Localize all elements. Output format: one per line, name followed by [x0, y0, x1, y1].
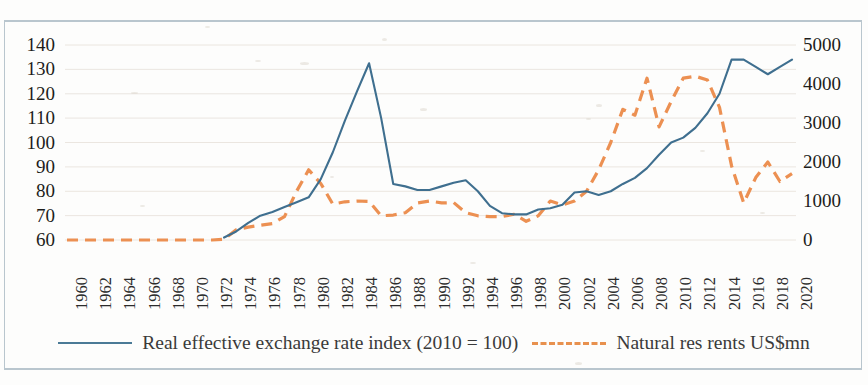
x-axis-tick-label: 1962 — [98, 277, 115, 310]
y-axis-left-tick-label: 70 — [9, 206, 55, 225]
x-axis-tick-label: 1990 — [437, 277, 454, 310]
x-axis-tick-label: 2018 — [775, 277, 792, 310]
y-axis-left-tick-label: 80 — [9, 181, 55, 200]
legend-label: Real effective exchange rate index (2010… — [142, 332, 518, 354]
y-axis-left-tick-label: 120 — [9, 84, 55, 103]
x-axis-tick-label: 1964 — [122, 277, 139, 310]
gridlines — [65, 45, 796, 240]
y-axis-right-tick-label: 2000 — [803, 152, 863, 171]
chart-legend: Real effective exchange rate index (2010… — [0, 326, 868, 360]
x-axis-tick-label: 2008 — [654, 277, 671, 310]
y-axis-left-tick-label: 130 — [9, 59, 55, 78]
x-axis-tick-label: 2000 — [557, 277, 574, 310]
x-axis-tick-label: 1984 — [364, 277, 381, 310]
x-axis-tick-label: 2016 — [751, 277, 768, 310]
y-axis-left-tick-label: 90 — [9, 157, 55, 176]
x-axis-tick-label: 1968 — [171, 277, 188, 310]
y-axis-right-tick-label: 3000 — [803, 113, 863, 132]
y-axis-left-tick-label: 60 — [9, 230, 55, 249]
legend-solid-line-icon — [58, 342, 132, 344]
y-axis-right-tick-label: 0 — [803, 230, 863, 249]
x-axis-tick-label: 1966 — [147, 277, 164, 310]
chart-figure: 60708090100110120130140 0100020003000400… — [0, 0, 868, 385]
y-axis-right-tick-label: 5000 — [803, 35, 863, 54]
x-axis-tick-label: 2004 — [606, 277, 623, 310]
x-axis-tick-label: 1976 — [267, 277, 284, 310]
x-axis-tick-label: 2020 — [799, 277, 816, 310]
x-axis-tick-label: 2006 — [630, 277, 647, 310]
x-axis-tick-label: 2002 — [582, 277, 599, 310]
legend-dashed-line-icon — [532, 342, 606, 345]
y-axis-left-tick-label: 140 — [9, 35, 55, 54]
y-axis-left-tick-label: 110 — [9, 108, 55, 127]
series-line-real-effective-exchange-rate — [224, 60, 792, 238]
x-axis-tick-label: 1978 — [292, 277, 309, 310]
x-axis-tick-label: 1982 — [340, 277, 357, 310]
x-axis-tick-label: 1970 — [195, 277, 212, 310]
x-axis-tick-label: 1986 — [388, 277, 405, 310]
x-axis-tick-label: 1972 — [219, 277, 236, 310]
y-axis-right-tick-label: 1000 — [803, 191, 863, 210]
x-axis-tick-label: 1980 — [316, 277, 333, 310]
legend-label: Natural res rents US$mn — [616, 332, 809, 354]
x-axis-tick-label: 1974 — [243, 277, 260, 310]
y-axis-right-tick-label: 4000 — [803, 74, 863, 93]
legend-item-natural-res-rents[interactable]: Natural res rents US$mn — [532, 332, 809, 354]
x-axis-tick-label: 1988 — [412, 277, 429, 310]
legend-item-real-effective-exchange-rate[interactable]: Real effective exchange rate index (2010… — [58, 332, 518, 354]
x-axis-tick-label: 1960 — [74, 277, 91, 310]
x-axis-tick-label: 2014 — [727, 277, 744, 310]
x-axis-tick-label: 1992 — [461, 277, 478, 310]
x-axis-tick-label: 1994 — [485, 277, 502, 310]
x-axis-tick-label: 1998 — [533, 277, 550, 310]
y-axis-left-tick-label: 100 — [9, 133, 55, 152]
x-axis-tick-label: 2012 — [702, 277, 719, 310]
x-axis-tick-label: 1996 — [509, 277, 526, 310]
x-axis-tick-label: 2010 — [678, 277, 695, 310]
